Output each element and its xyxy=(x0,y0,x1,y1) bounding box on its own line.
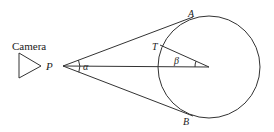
point-p-label: P xyxy=(45,60,53,72)
camera-label: Camera xyxy=(12,40,46,52)
radius-line-ct xyxy=(160,45,209,67)
alpha-label: α xyxy=(83,61,89,72)
point-a-label: A xyxy=(187,8,195,19)
camera-tangent-diagram: Camera P α β A B T xyxy=(0,0,274,132)
beta-angle-arc xyxy=(195,61,196,67)
point-b-label: B xyxy=(183,116,189,127)
camera-icon xyxy=(19,53,41,78)
tangent-line-pb xyxy=(63,66,193,116)
point-t-label: T xyxy=(152,41,159,52)
beta-label: β xyxy=(173,55,179,66)
